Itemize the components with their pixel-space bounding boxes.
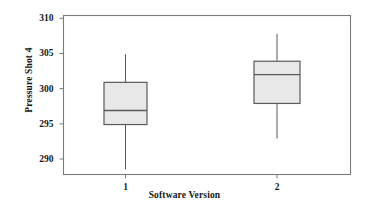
y-axis-tick-label: 300: [26, 83, 54, 95]
y-axis-tick-label: 290: [26, 153, 54, 165]
x-axis-tick-label: 1: [111, 181, 141, 193]
x-axis-tick-label: 2: [262, 181, 292, 193]
x-axis-title: Software Version: [0, 190, 369, 200]
box-iqr: [104, 82, 147, 124]
y-axis-tick-label: 295: [26, 118, 54, 130]
box-plot-chart: Pressure Shot 4 Software Version 2902953…: [0, 0, 369, 209]
y-axis-tick-label: 310: [26, 12, 54, 24]
y-axis-tick-label: 305: [26, 47, 54, 59]
box-iqr: [254, 61, 300, 103]
plot-area: [0, 0, 369, 209]
